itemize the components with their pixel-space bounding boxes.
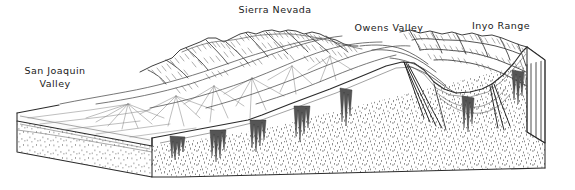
block-diagram-figure: San Joaquin Valley Sierra Nevada Owens V…	[0, 0, 575, 190]
label-line-2: Valley	[17, 78, 93, 91]
label-line-1: Inyo Range	[466, 20, 536, 33]
label-line-1: Owens Valley	[353, 22, 425, 35]
label-san-joaquin-valley: San Joaquin Valley	[17, 65, 93, 90]
label-sierra-nevada: Sierra Nevada	[224, 4, 326, 17]
label-owens-valley: Owens Valley	[353, 22, 425, 35]
label-inyo-range: Inyo Range	[466, 20, 536, 33]
label-line-1: Sierra Nevada	[224, 4, 326, 17]
label-line-1: San Joaquin	[17, 65, 93, 78]
